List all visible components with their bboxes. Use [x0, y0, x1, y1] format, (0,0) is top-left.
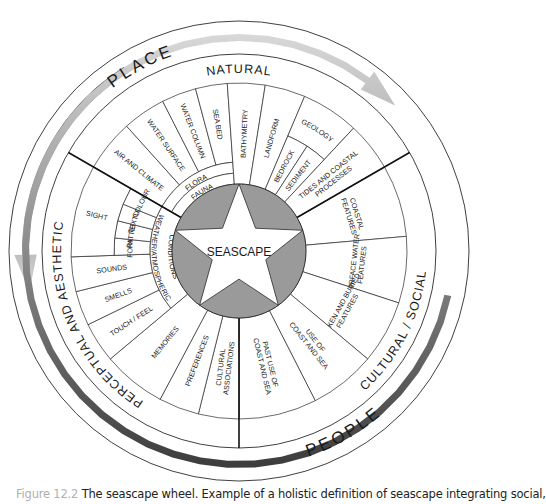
center-label-seascape: SEASCAPE — [207, 245, 272, 259]
figure-caption: Figure 12.2 The seascape wheel. Example … — [16, 487, 486, 501]
label-people: PEOPLE — [303, 402, 385, 460]
seascape-wheel-diagram: AIR AND CLIMATEWATER SURFACEWATER COLUMN… — [0, 0, 478, 488]
figure-number: Figure 12.2 — [16, 487, 78, 501]
caption-text: The seascape wheel. Example of a holisti… — [82, 487, 546, 501]
label-natural: NATURAL — [205, 62, 273, 79]
label-place: PLACE — [104, 41, 176, 91]
